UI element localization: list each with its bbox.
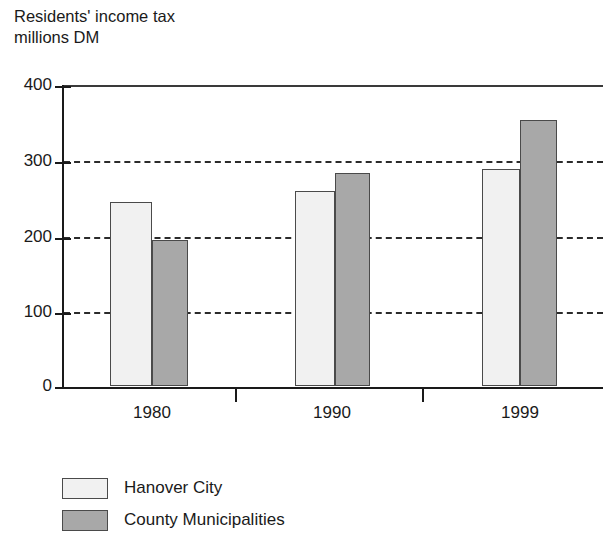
- chart-title: Residents' income tax millions DM: [14, 6, 175, 48]
- bar-hanover-city-1980: [110, 202, 152, 386]
- bar-county-municipalities-1980: [152, 240, 188, 386]
- x-tick-separator-2: [422, 388, 424, 402]
- y-tick-label-400: 400: [24, 75, 52, 95]
- y-tick-label-300: 300: [24, 151, 52, 171]
- top-axis-line: [62, 85, 603, 87]
- legend: Hanover City County Municipalities: [62, 472, 285, 536]
- chart-title-line1: Residents' income tax: [14, 6, 175, 27]
- plot-area: 400 300 200 100 0 1980 1990 1999: [62, 85, 603, 388]
- legend-swatch-hanover-city: [62, 478, 108, 499]
- legend-swatch-county-municipalities: [62, 510, 108, 531]
- legend-item-hanover-city: Hanover City: [62, 472, 285, 504]
- legend-label-hanover-city: Hanover City: [124, 478, 222, 498]
- legend-label-county-municipalities: County Municipalities: [124, 510, 285, 530]
- x-tick-separator-1: [235, 388, 237, 402]
- y-tick-label-200: 200: [24, 227, 52, 247]
- bar-county-municipalities-1999: [520, 120, 557, 386]
- chart-subtitle-line2: millions DM: [14, 27, 175, 48]
- bar-county-municipalities-1990: [335, 173, 370, 386]
- y-tick-label-100: 100: [24, 302, 52, 322]
- y-tick-label-0: 0: [43, 376, 52, 396]
- legend-item-county-municipalities: County Municipalities: [62, 504, 285, 536]
- x-axis-label-1980: 1980: [102, 403, 202, 423]
- x-axis-label-1999: 1999: [470, 403, 570, 423]
- bar-hanover-city-1999: [482, 169, 520, 386]
- x-axis-line: [62, 387, 603, 389]
- bar-hanover-city-1990: [295, 191, 335, 386]
- x-axis-label-1990: 1990: [282, 403, 382, 423]
